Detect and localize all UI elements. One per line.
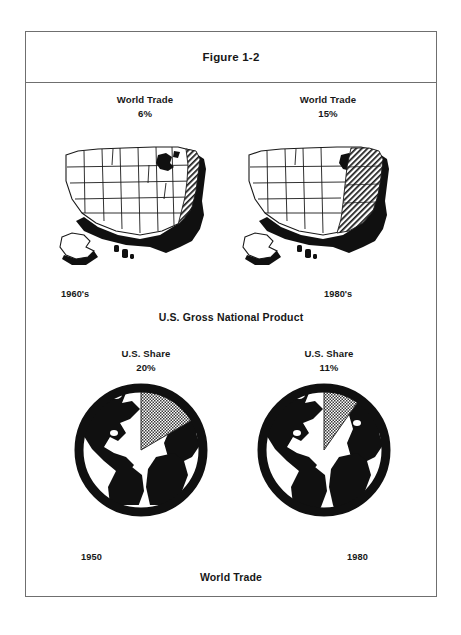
stat-us-share-1950: U.S. Share 20%: [70, 347, 222, 374]
caption-gross-national-product: U.S. Gross National Product: [26, 311, 436, 323]
figure-header: Figure 1-2: [26, 32, 436, 83]
us-map-1980s-illustration: [237, 125, 411, 277]
panel-world-trade: U.S. Share 20%: [26, 335, 436, 598]
stat-label: World Trade: [300, 94, 356, 105]
us-map-1960s-illustration: [54, 125, 228, 277]
panel-gross-national-product: World Trade 6%: [26, 83, 436, 335]
stat-world-trade-1980s: World Trade 15%: [253, 93, 403, 120]
figure-title: Figure 1-2: [203, 51, 260, 63]
stat-value: 6%: [70, 107, 220, 121]
unit-label-1980s: 1980's: [324, 289, 352, 299]
stat-world-trade-1960s: World Trade 6%: [70, 93, 220, 120]
stat-label: U.S. Share: [122, 348, 171, 359]
unit-label-1950: 1950: [81, 552, 102, 562]
figure-frame: Figure 1-2 World Trade 6%: [25, 31, 437, 597]
globe-1980-illustration: [253, 379, 395, 525]
unit-label-1980: 1980: [347, 552, 368, 562]
unit-label-1960s: 1960's: [61, 289, 89, 299]
stat-value: 20%: [70, 361, 222, 375]
caption-world-trade: World Trade: [26, 571, 436, 583]
stat-value: 11%: [253, 361, 405, 375]
stat-us-share-1980: U.S. Share 11%: [253, 347, 405, 374]
stat-value: 15%: [253, 107, 403, 121]
stat-label: U.S. Share: [305, 348, 354, 359]
globe-1950-illustration: [70, 379, 212, 525]
figure-body: World Trade 6%: [26, 83, 436, 596]
stat-label: World Trade: [117, 94, 173, 105]
